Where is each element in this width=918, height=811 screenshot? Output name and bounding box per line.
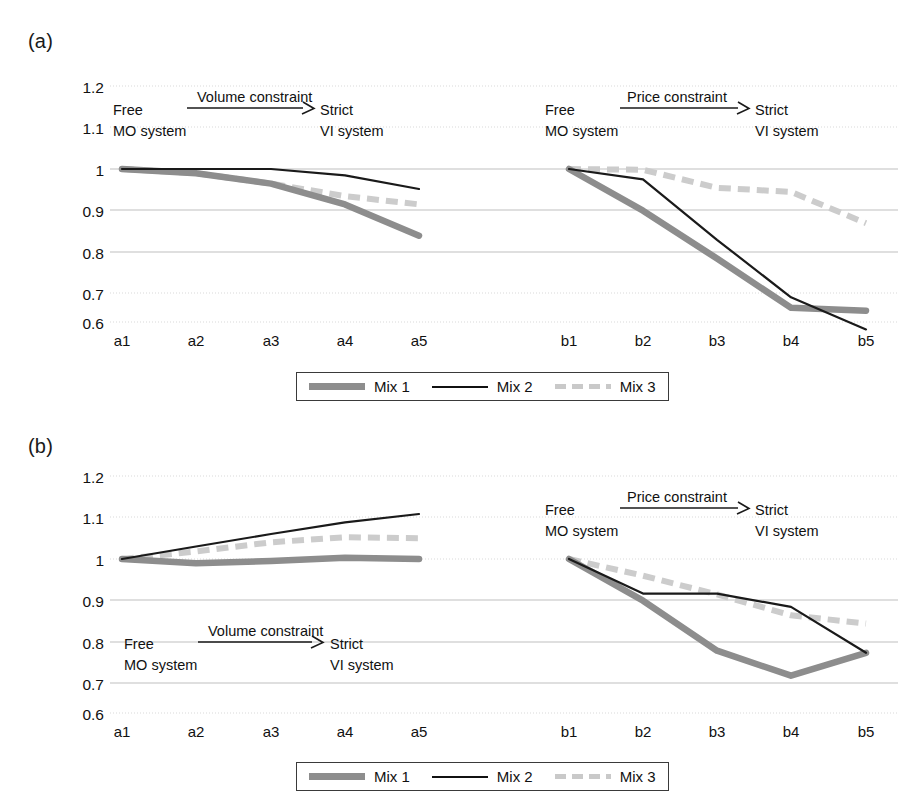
legend-swatch-mix2-icon	[432, 776, 488, 778]
annotation-right-bottom: VI system	[320, 122, 384, 140]
legend-label-mix2: Mix 2	[497, 768, 533, 785]
annotation-left-bottom: MO system	[113, 122, 186, 140]
x-tick-b-a5: a5	[399, 724, 439, 739]
panel-a-plot	[0, 0, 918, 360]
legend-label-mix3: Mix 3	[620, 768, 656, 785]
legend-item-mix3: Mix 3	[555, 378, 656, 395]
annotation-right-top: Strict	[755, 501, 788, 519]
x-tick-a-a4: a4	[325, 333, 365, 348]
legend-swatch-mix3-icon	[555, 384, 611, 389]
x-tick-a-a2: a2	[176, 333, 216, 348]
annotation-title: Price constraint	[627, 88, 727, 106]
annotation-left-bottom: MO system	[124, 656, 197, 674]
annotation-right-bottom: VI system	[755, 122, 819, 140]
legend-label-mix1: Mix 1	[374, 378, 410, 395]
annotation-title: Volume constraint	[197, 88, 312, 106]
panel-a: (a) 1.2 1.1 1 0.9 0.8 0.7 0.6	[0, 0, 918, 410]
legend-item-mix1: Mix 1	[309, 768, 432, 785]
x-tick-b-a2: a2	[176, 724, 216, 739]
panel-b: (b) 1.2 1.1 1 0.9 0.8 0.7 0.6	[0, 410, 918, 811]
x-tick-a-a3: a3	[251, 333, 291, 348]
x-tick-a-a1: a1	[102, 333, 142, 348]
annotation-right-bottom: VI system	[330, 656, 394, 674]
x-tick-b-b5: b5	[846, 724, 886, 739]
x-tick-b-b1: b1	[549, 724, 589, 739]
legend-swatch-mix3-icon	[555, 774, 611, 779]
legend-panel-b: Mix 1 Mix 2 Mix 3	[296, 762, 669, 791]
series-mix2-b-group-b	[569, 559, 866, 653]
annotation-left-top: Free	[545, 101, 575, 119]
series-mix3-b-group-b	[569, 559, 866, 624]
x-tick-a-b3: b3	[697, 333, 737, 348]
series-mix1-b-group-a	[122, 558, 419, 564]
annotation-title: Price constraint	[627, 488, 727, 506]
annotation-left-bottom: MO system	[545, 122, 618, 140]
x-tick-a-b2: b2	[623, 333, 663, 348]
series-mix1-b-group-b	[569, 559, 866, 676]
legend-item-mix1: Mix 1	[309, 378, 432, 395]
legend-item-mix2: Mix 2	[432, 768, 555, 785]
legend-label-mix2: Mix 2	[497, 378, 533, 395]
x-tick-a-b1: b1	[549, 333, 589, 348]
panel-b-plot	[0, 410, 918, 755]
legend-swatch-mix2-icon	[432, 386, 488, 388]
legend-swatch-mix1-icon	[309, 773, 365, 780]
x-tick-b-b2: b2	[623, 724, 663, 739]
annotation-left-top: Free	[113, 101, 143, 119]
x-tick-b-b4: b4	[771, 724, 811, 739]
legend-item-mix2: Mix 2	[432, 378, 555, 395]
x-tick-b-a4: a4	[325, 724, 365, 739]
annotation-right-top: Strict	[755, 101, 788, 119]
annotation-right-bottom: VI system	[755, 522, 819, 540]
legend-label-mix3: Mix 3	[620, 378, 656, 395]
x-tick-b-a3: a3	[251, 724, 291, 739]
legend-item-mix3: Mix 3	[555, 768, 656, 785]
x-tick-a-b5: b5	[846, 333, 886, 348]
figure-root: (a) 1.2 1.1 1 0.9 0.8 0.7 0.6	[0, 0, 918, 811]
annotation-left-top: Free	[545, 501, 575, 519]
annotation-right-top: Strict	[330, 635, 363, 653]
legend-swatch-mix1-icon	[309, 383, 365, 390]
annotation-right-top: Strict	[320, 101, 353, 119]
annotation-left-top: Free	[124, 635, 154, 653]
x-tick-b-b3: b3	[697, 724, 737, 739]
legend-label-mix1: Mix 1	[374, 768, 410, 785]
legend-panel-a: Mix 1 Mix 2 Mix 3	[296, 372, 669, 401]
annotation-left-bottom: MO system	[545, 522, 618, 540]
annotation-title: Volume constraint	[208, 622, 323, 640]
x-tick-b-a1: a1	[102, 724, 142, 739]
x-tick-a-b4: b4	[771, 333, 811, 348]
x-tick-a-a5: a5	[399, 333, 439, 348]
